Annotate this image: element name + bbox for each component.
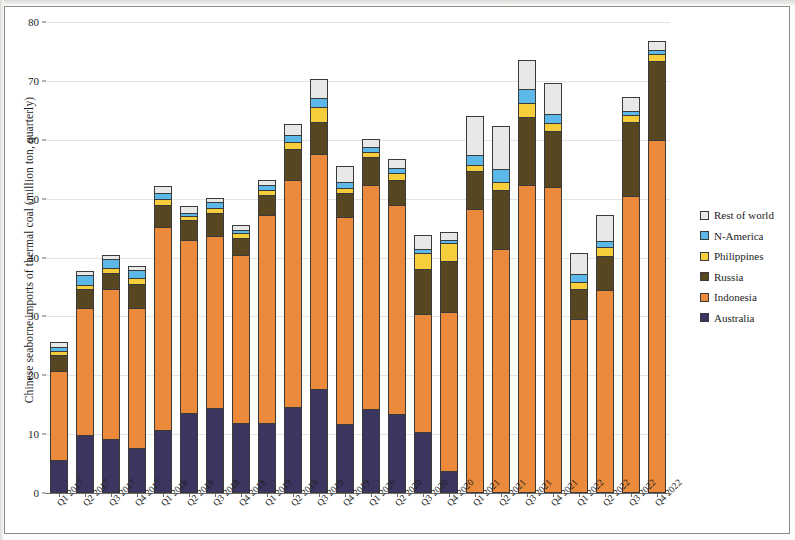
bar-segment-indonesia[interactable] [570,319,588,493]
legend-item-n-america[interactable]: N-America [700,226,792,247]
bar-stack[interactable] [648,41,666,493]
bar-segment-indonesia[interactable] [76,308,94,435]
bar-segment-russia[interactable] [180,220,198,239]
bar-segment-rest-of-world[interactable] [544,83,562,114]
bar-stack[interactable] [492,126,510,493]
bar-segment-n-america[interactable] [310,98,328,107]
bar-segment-rest-of-world[interactable] [596,215,614,241]
bar-segment-russia[interactable] [362,157,380,184]
bar-segment-indonesia[interactable] [336,217,354,424]
bar-stack[interactable] [154,186,172,493]
bar-segment-n-america[interactable] [284,135,302,142]
bar-segment-indonesia[interactable] [466,209,484,493]
bar-segment-philippines[interactable] [284,142,302,149]
bar-segment-n-america[interactable] [518,89,536,104]
bar-segment-n-america[interactable] [102,259,120,268]
bar-segment-rest-of-world[interactable] [388,159,406,168]
bar-segment-rest-of-world[interactable] [336,166,354,181]
bar-segment-indonesia[interactable] [414,314,432,432]
bar-segment-indonesia[interactable] [492,249,510,493]
bar-segment-indonesia[interactable] [154,227,172,430]
bar-stack[interactable] [440,232,458,493]
bar-segment-philippines[interactable] [310,107,328,122]
bar-stack[interactable] [206,198,224,494]
bar-segment-indonesia[interactable] [258,215,276,423]
bar-segment-philippines[interactable] [440,243,458,261]
bar-stack[interactable] [518,60,536,493]
bar-segment-rest-of-world[interactable] [362,139,380,148]
bar-segment-n-america[interactable] [128,270,146,277]
bar-stack[interactable] [128,266,146,493]
bar-stack[interactable] [232,225,250,493]
bar-segment-russia[interactable] [50,355,68,371]
bar-segment-russia[interactable] [518,117,536,184]
bar-segment-russia[interactable] [388,180,406,205]
bar-stack[interactable] [544,83,562,493]
bar-stack[interactable] [362,139,380,493]
bar-stack[interactable] [388,159,406,493]
bar-segment-philippines[interactable] [544,123,562,131]
bar-stack[interactable] [570,253,588,493]
bar-segment-philippines[interactable] [648,54,666,62]
bar-stack[interactable] [180,206,198,493]
bar-segment-rest-of-world[interactable] [414,235,432,249]
bar-segment-indonesia[interactable] [206,236,224,408]
bar-segment-indonesia[interactable] [284,180,302,407]
bar-stack[interactable] [622,97,640,493]
bar-segment-russia[interactable] [336,193,354,217]
bar-segment-australia[interactable] [50,460,68,493]
bar-segment-russia[interactable] [570,289,588,319]
bar-segment-indonesia[interactable] [50,371,68,460]
bar-segment-russia[interactable] [232,238,250,256]
legend-item-australia[interactable]: Australia [700,308,792,329]
bar-segment-russia[interactable] [648,61,666,140]
bar-stack[interactable] [76,271,94,493]
bar-segment-philippines[interactable] [518,103,536,117]
bar-segment-russia[interactable] [102,273,120,288]
bar-segment-indonesia[interactable] [388,205,406,414]
bar-segment-russia[interactable] [76,289,94,308]
bar-stack[interactable] [102,255,120,493]
bar-segment-rest-of-world[interactable] [648,41,666,50]
bar-segment-n-america[interactable] [570,274,588,282]
bar-stack[interactable] [596,215,614,493]
bar-segment-indonesia[interactable] [518,185,536,494]
bar-segment-philippines[interactable] [414,253,432,269]
bar-segment-russia[interactable] [466,171,484,209]
bar-segment-indonesia[interactable] [232,255,250,423]
bar-segment-indonesia[interactable] [622,196,640,493]
bar-segment-rest-of-world[interactable] [154,186,172,194]
bar-stack[interactable] [466,116,484,493]
bar-segment-rest-of-world[interactable] [492,126,510,169]
bar-segment-indonesia[interactable] [596,290,614,493]
bar-segment-n-america[interactable] [76,275,94,284]
bar-segment-russia[interactable] [284,149,302,180]
bar-segment-russia[interactable] [310,122,328,154]
bar-stack[interactable] [310,79,328,493]
bar-segment-n-america[interactable] [492,169,510,181]
bar-stack[interactable] [50,342,68,493]
bar-segment-rest-of-world[interactable] [440,232,458,241]
bar-segment-indonesia[interactable] [362,185,380,410]
bar-segment-indonesia[interactable] [440,312,458,471]
bar-segment-n-america[interactable] [466,155,484,165]
legend-item-philippines[interactable]: Philippines [700,246,792,267]
bar-segment-russia[interactable] [258,195,276,215]
bar-segment-russia[interactable] [206,213,224,236]
legend-item-russia[interactable]: Russia [700,267,792,288]
bar-segment-russia[interactable] [544,131,562,188]
bar-segment-rest-of-world[interactable] [284,124,302,135]
legend-item-rest-of-world[interactable]: Rest of world [700,205,792,226]
bar-segment-rest-of-world[interactable] [570,253,588,274]
bar-segment-rest-of-world[interactable] [310,79,328,98]
bar-segment-rest-of-world[interactable] [518,60,536,89]
bar-segment-philippines[interactable] [570,282,588,290]
bar-segment-russia[interactable] [414,269,432,314]
bar-segment-russia[interactable] [622,122,640,197]
bar-segment-russia[interactable] [440,261,458,312]
bar-segment-n-america[interactable] [544,114,562,123]
bar-segment-rest-of-world[interactable] [466,116,484,154]
bar-segment-russia[interactable] [596,256,614,291]
bar-segment-indonesia[interactable] [128,308,146,449]
bar-segment-indonesia[interactable] [648,140,666,493]
